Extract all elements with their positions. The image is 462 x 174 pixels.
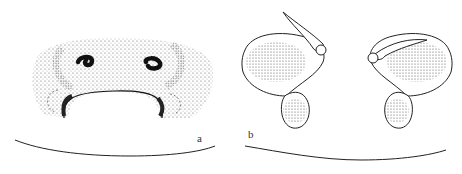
epigynum-drawing: [0, 0, 231, 174]
figure: a b: [0, 0, 462, 174]
panel-label-b: b: [248, 128, 254, 140]
vulva-drawing: [231, 0, 462, 174]
panel-a: a: [0, 0, 231, 174]
panel-label-a: a: [197, 132, 202, 144]
panel-b: b: [231, 0, 462, 174]
